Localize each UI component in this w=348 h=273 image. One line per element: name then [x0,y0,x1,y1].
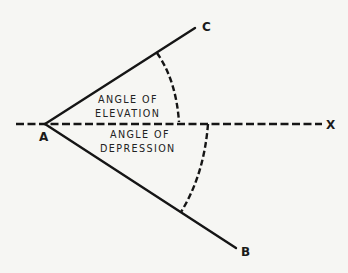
elevation-arc [157,53,179,122]
point-label-a: A [39,130,49,144]
point-label-b: B [241,245,250,259]
elevation-label-line2: ELEVATION [95,108,160,119]
depression-label-line2: DEPRESSION [100,143,176,154]
point-label-x: X [326,118,336,132]
point-label-c: C [202,20,211,34]
depression-label-line1: ANGLE OF [110,129,170,140]
angle-diagram: A C B X ANGLE OF ELEVATION ANGLE OF DEPR… [0,0,348,273]
elevation-label-line1: ANGLE OF [98,94,158,105]
depression-arc [181,124,208,212]
